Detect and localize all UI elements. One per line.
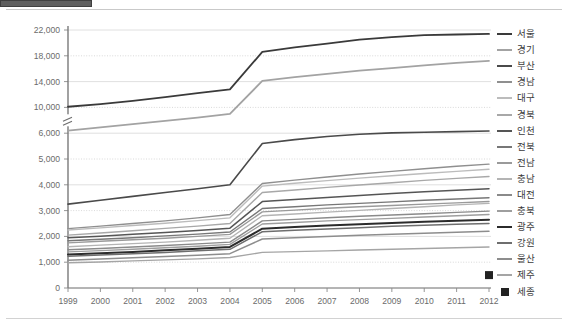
legend-line-swatch-icon [497, 97, 512, 99]
legend-item-5[interactable]: 경북 [497, 106, 563, 122]
y-axis-tick-label: 4,000 [38, 180, 60, 190]
legend-item-label: 경남 [517, 77, 535, 87]
legend-item-label: 대전 [517, 190, 535, 200]
legend-item-10[interactable]: 대전 [497, 187, 563, 203]
x-axis-tick-label: 2002 [156, 296, 175, 306]
legend-item-label: 울산 [517, 254, 535, 264]
legend-item-label: 경북 [517, 110, 535, 120]
page-root: 01,0002,0003,0004,0005,0006,00010,00014,… [0, 0, 566, 333]
legend-line-swatch-icon [497, 242, 512, 244]
y-axis-tick-label: 1,000 [38, 257, 60, 267]
legend-line-swatch-icon [497, 258, 512, 260]
legend-item-label: 대구 [517, 93, 535, 103]
chart-figure: 01,0002,0003,0004,0005,0006,00010,00014,… [0, 0, 566, 333]
y-axis-tick-label: 2,000 [38, 231, 60, 241]
legend-item-label: 경기 [517, 45, 535, 55]
x-axis-tick-label: 2001 [123, 296, 142, 306]
series-line [68, 34, 489, 107]
legend-item-6[interactable]: 인천 [497, 123, 563, 139]
y-axis-tick-label: 3,000 [38, 206, 60, 216]
legend-item-12[interactable]: 광주 [497, 219, 563, 235]
legend-line-swatch-icon [497, 178, 512, 180]
legend-line-swatch-icon [497, 130, 512, 132]
legend-item-label: 서울 [517, 29, 535, 39]
legend-item-label: 전남 [517, 158, 535, 168]
legend-line-swatch-icon [497, 81, 512, 83]
x-axis-ticks: 1999200020012002200320042005200620072008… [58, 288, 498, 306]
legend-item-label: 충남 [517, 174, 535, 184]
legend-item-label: 강원 [517, 238, 535, 248]
x-axis-tick-label: 2004 [220, 296, 239, 306]
x-axis-tick-label: 1999 [58, 296, 77, 306]
x-axis-tick-label: 2003 [188, 296, 207, 306]
x-axis-tick-label: 2012 [479, 296, 498, 306]
x-axis-tick-label: 2008 [350, 296, 369, 306]
legend-item-7[interactable]: 전북 [497, 139, 563, 155]
legend-item-0[interactable]: 서울 [497, 26, 563, 42]
legend-item-11[interactable]: 충북 [497, 203, 563, 219]
x-axis-tick-label: 2009 [382, 296, 401, 306]
legend-item-9[interactable]: 충남 [497, 171, 563, 187]
legend-item-15[interactable]: 제주 [497, 267, 563, 283]
x-axis-tick-label: 2010 [415, 296, 434, 306]
series-marker-sejong [485, 271, 493, 279]
legend-line-swatch-icon [497, 49, 512, 51]
legend-item-3[interactable]: 경남 [497, 74, 563, 90]
x-axis-tick-label: 2011 [447, 296, 466, 306]
line-chart: 01,0002,0003,0004,0005,0006,00010,00014,… [0, 0, 566, 333]
series-line [68, 231, 489, 260]
legend-square-marker-icon [501, 288, 509, 296]
y-axis-tick-label: 10,000 [34, 102, 61, 112]
legend-line-swatch-icon [497, 194, 512, 196]
legend-line-swatch-icon [497, 65, 512, 67]
legend-line-swatch-icon [497, 114, 512, 116]
legend-item-8[interactable]: 전남 [497, 155, 563, 171]
legend-line-swatch-icon [497, 33, 512, 35]
legend-item-14[interactable]: 울산 [497, 251, 563, 267]
legend-item-2[interactable]: 부산 [497, 58, 563, 74]
legend-line-swatch-icon [497, 210, 512, 212]
y-axis-tick-label: 5,000 [38, 154, 60, 164]
legend-item-label: 인천 [517, 126, 535, 136]
legend-item-label: 세종 [517, 287, 535, 297]
legend-item-label: 부산 [517, 61, 535, 71]
legend-item-label: 광주 [517, 222, 535, 232]
legend-line-swatch-icon [497, 162, 512, 164]
x-axis-tick-label: 2007 [318, 296, 337, 306]
legend-line-swatch-icon [497, 274, 512, 276]
series-line [68, 131, 489, 204]
y-axis-tick-label: 22,000 [34, 25, 61, 35]
y-axis-tick-label: 0 [55, 283, 60, 293]
legend-item-label: 충북 [517, 206, 535, 216]
legend-item-label: 전북 [517, 142, 535, 152]
legend-item-1[interactable]: 경기 [497, 42, 563, 58]
y-axis-tick-label: 6,000 [38, 128, 60, 138]
chart-legend: 서울경기부산경남대구경북인천전북전남충남대전충북광주강원울산제주세종 [497, 26, 563, 300]
legend-item-16[interactable]: 세종 [497, 284, 563, 300]
legend-item-label: 제주 [517, 270, 535, 280]
x-axis-tick-label: 2000 [91, 296, 110, 306]
axis-break-marker [63, 114, 73, 126]
legend-item-4[interactable]: 대구 [497, 90, 563, 106]
y-axis-tick-label: 18,000 [34, 51, 61, 61]
series-line [68, 61, 489, 131]
x-axis-tick-label: 2006 [285, 296, 304, 306]
x-axis-tick-label: 2005 [253, 296, 272, 306]
legend-line-swatch-icon [497, 226, 512, 228]
y-axis-tick-label: 14,000 [34, 77, 61, 87]
legend-item-13[interactable]: 강원 [497, 235, 563, 251]
series-group [68, 34, 493, 279]
legend-line-swatch-icon [497, 146, 512, 148]
